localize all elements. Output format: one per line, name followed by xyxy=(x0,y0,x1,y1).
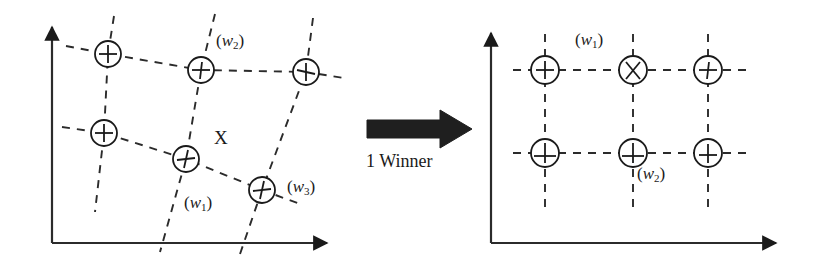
transition-label: 1 Winner xyxy=(366,152,432,170)
figure-root: (w2) (w1) (w3) X 1 Winner (w1) (w2) xyxy=(0,0,816,269)
diagram-canvas xyxy=(0,0,816,269)
right-label-w2: (w2) xyxy=(637,165,665,182)
node-R6[interactable] xyxy=(694,139,722,167)
node-R5[interactable] xyxy=(619,139,647,167)
node-L3[interactable] xyxy=(293,59,319,85)
node-L4[interactable] xyxy=(91,120,117,146)
right-arrow-icon xyxy=(367,110,472,148)
node-L6[interactable] xyxy=(249,177,275,203)
left-label-w2: (w2) xyxy=(216,32,244,49)
right-panel xyxy=(491,33,776,243)
left-panel xyxy=(52,14,344,254)
left-col-2 xyxy=(160,14,215,252)
node-R2-winner[interactable] xyxy=(619,56,647,84)
left-col-3 xyxy=(240,18,313,254)
node-L5[interactable] xyxy=(173,146,199,172)
node-R4[interactable] xyxy=(531,139,559,167)
transition-arrow xyxy=(367,110,472,148)
left-label-input-x: X xyxy=(214,128,228,147)
node-L1[interactable] xyxy=(95,41,121,67)
left-nodes xyxy=(91,41,319,203)
node-L2[interactable] xyxy=(188,57,214,83)
left-column-links xyxy=(95,14,313,254)
right-label-w1: (w1) xyxy=(575,31,603,48)
right-nodes xyxy=(531,56,722,167)
left-label-w3: (w3) xyxy=(287,178,315,195)
node-R1[interactable] xyxy=(531,56,559,84)
left-label-w1: (w1) xyxy=(184,194,212,211)
node-R3[interactable] xyxy=(694,56,722,84)
